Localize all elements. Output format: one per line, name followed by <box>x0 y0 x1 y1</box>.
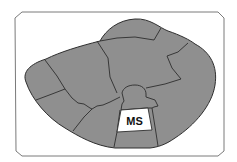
ms-label: MS <box>126 115 143 127</box>
region-map-diagram: MS <box>0 0 237 162</box>
